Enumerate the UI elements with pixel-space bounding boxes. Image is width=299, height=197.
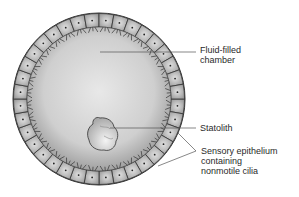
cell-nucleus [177, 105, 179, 107]
cell-nucleus [53, 34, 55, 36]
cell-nucleus [65, 27, 67, 29]
cell-nucleus [131, 27, 133, 29]
cell-nucleus [91, 177, 93, 179]
cell-nucleus [163, 143, 165, 145]
cell-nucleus [22, 118, 24, 120]
cell-nucleus [105, 20, 107, 22]
cell-nucleus [27, 65, 29, 67]
cell-nucleus [78, 22, 80, 24]
cell-nucleus [65, 169, 67, 171]
cell-nucleus [105, 177, 107, 179]
cell-nucleus [131, 169, 133, 171]
label-statolith: Statolith [200, 123, 233, 133]
cell-nucleus [143, 34, 145, 36]
cell-nucleus [53, 163, 55, 165]
leader-line-epithelium-upper [178, 133, 196, 151]
cell-nucleus [143, 163, 145, 165]
cell-nucleus [20, 105, 22, 107]
cell-nucleus [118, 174, 120, 176]
cell-nucleus [22, 78, 24, 80]
label-fluid-filled-chamber: Fluid-filled chamber [200, 45, 241, 65]
cell-nucleus [78, 174, 80, 176]
cell-nucleus [174, 78, 176, 80]
label-sensory-epithelium: Sensory epithelium containing nonmotile … [201, 146, 278, 176]
cell-nucleus [27, 131, 29, 133]
cell-nucleus [42, 42, 44, 44]
cell-nucleus [34, 53, 36, 55]
cell-nucleus [169, 65, 171, 67]
cell-nucleus [42, 154, 44, 156]
cell-nucleus [163, 53, 165, 55]
cell-nucleus [169, 131, 171, 133]
cell-nucleus [154, 42, 156, 44]
cell-nucleus [177, 91, 179, 93]
cell-nucleus [174, 118, 176, 120]
cell-nucleus [91, 20, 93, 22]
cell-nucleus [20, 91, 22, 93]
cell-nucleus [34, 143, 36, 145]
cell-nucleus [154, 154, 156, 156]
cell-nucleus [118, 22, 120, 24]
